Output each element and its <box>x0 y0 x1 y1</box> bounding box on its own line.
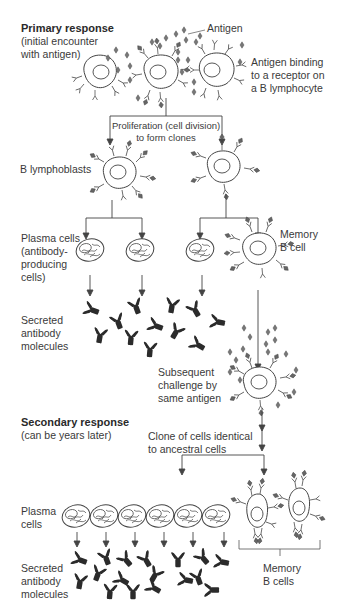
primary-response-subheading: (initial encounter with antigen) <box>21 35 98 61</box>
clone-label: Clone of cells identical to ancestral ce… <box>148 430 252 456</box>
subsequent-challenge-label: Subsequent challenge by same antigen <box>158 366 221 405</box>
naive-b-cell-left <box>72 55 128 100</box>
differentiation-bracket-left <box>83 200 145 239</box>
memory-b-cell-challenged <box>229 352 296 416</box>
antibody-cluster-primary <box>83 298 225 356</box>
proliferation-label: Proliferation (cell division) to form cl… <box>105 120 227 144</box>
secretion-arrows-secondary <box>74 532 227 547</box>
secondary-response-heading: Secondary response <box>21 416 129 429</box>
antigen-pointer-line <box>188 30 205 34</box>
memory-b-cell-secondary-1 <box>230 478 284 544</box>
antigen-label: Antigen <box>207 22 243 35</box>
memory-cells-bracket <box>239 540 320 556</box>
differentiation-bracket-right <box>197 194 261 239</box>
memory-b-cell-label: Memory B cell <box>280 228 318 254</box>
antibody-cluster-secondary <box>71 549 229 599</box>
secretion-arrows-primary <box>87 275 205 296</box>
plasma-cells-label-secondary: Plasma cells <box>21 505 56 531</box>
antigen-binding-label: Antigen binding to a receptor on a B lym… <box>251 56 325 95</box>
primary-response-heading: Primary response <box>21 22 114 35</box>
secreted-antibody-label-secondary: Secreted antibody molecules <box>21 562 68 601</box>
plasma-cell-row-secondary <box>60 502 233 530</box>
b-lymphoblast-left <box>89 140 156 200</box>
memory-b-cells-label: Memory B cells <box>263 562 301 588</box>
memory-to-challenge-connector <box>255 290 261 370</box>
b-lymphoblasts-label: B lymphoblasts <box>20 163 91 176</box>
plasma-cell <box>184 236 217 264</box>
secreted-antibody-label-primary: Secreted antibody molecules <box>21 314 68 353</box>
plasma-cell <box>124 236 157 264</box>
plasma-cells-label: Plasma cells (antibody- producing cells) <box>21 232 80 284</box>
secondary-response-subheading: (can be years later) <box>21 429 111 442</box>
